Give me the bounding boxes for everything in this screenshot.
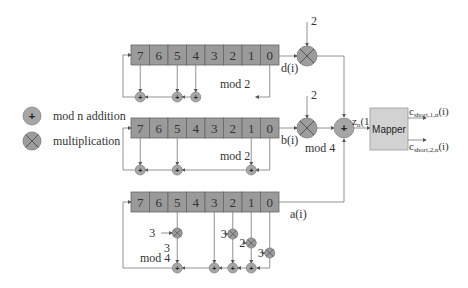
- cell-label: 2: [230, 195, 237, 210]
- svg-text:+: +: [175, 265, 179, 272]
- register-cell: 5: [168, 192, 187, 212]
- summer-adder: +: [334, 118, 354, 138]
- mod4-label-b: mod 4: [305, 141, 335, 155]
- register-cell: 6: [150, 45, 169, 65]
- svg-text:+: +: [231, 265, 235, 272]
- register-cell: 1: [242, 45, 261, 65]
- svg-text:+: +: [212, 265, 216, 272]
- multiplier-b-const: 2: [311, 88, 317, 102]
- register-cell: 3: [205, 45, 224, 65]
- cell-label: 6: [156, 121, 163, 136]
- register-cell: 2: [224, 45, 243, 65]
- cell-label: 1: [248, 48, 255, 63]
- svg-text:+: +: [175, 94, 179, 101]
- feedback-adder: +: [209, 263, 219, 273]
- cell-label: 5: [174, 121, 181, 136]
- feedback-adder: +: [172, 92, 182, 102]
- legend: + mod n addition multiplication: [23, 107, 126, 150]
- register-cell: 5: [168, 118, 187, 138]
- mapper-output-2: cshort,2,n(i): [409, 140, 449, 154]
- svg-text:+: +: [175, 167, 179, 174]
- cell-label: 5: [174, 195, 181, 210]
- register-cell: 5: [168, 45, 187, 65]
- cell-label: 3: [211, 48, 218, 63]
- cell-label: 0: [267, 121, 274, 136]
- mod-label: mod 2: [220, 149, 250, 163]
- tap-multiplier: [172, 228, 182, 238]
- cell-label: 7: [137, 48, 144, 63]
- register-cell: 6: [150, 118, 169, 138]
- mapper-label: Mapper: [372, 124, 407, 135]
- legend-adder-label: mod n addition: [53, 109, 126, 123]
- mapper-output-1: cshort,1,n(i): [409, 105, 449, 119]
- feedback-adder: +: [135, 165, 145, 175]
- register-cell: 0: [261, 118, 280, 138]
- register-b: 76543210mod 2+++: [123, 118, 279, 175]
- feedback-adder: +: [172, 263, 182, 273]
- register-cell: 3: [205, 192, 224, 212]
- svg-text:+: +: [194, 94, 198, 101]
- tap-multiplier: [265, 248, 275, 258]
- register-cell: 4: [187, 45, 206, 65]
- tap-coeff: 3: [149, 226, 155, 240]
- cell-label: 7: [137, 195, 144, 210]
- cell-label: 6: [156, 48, 163, 63]
- tap-multiplier: [228, 229, 238, 239]
- output-label-a: a(i): [290, 207, 307, 221]
- cell-label: 4: [193, 121, 200, 136]
- tap-multiplier: [246, 238, 256, 248]
- register-cell: 3: [205, 118, 224, 138]
- register-a: 76543210mod 43323++++3: [123, 192, 279, 273]
- cell-label: 1: [248, 121, 255, 136]
- cell-label: 4: [193, 195, 200, 210]
- svg-text:+: +: [138, 94, 142, 101]
- cell-label: 3: [211, 121, 218, 136]
- cell-label: 3: [211, 195, 218, 210]
- register-cell: 2: [224, 118, 243, 138]
- register-cell: 1: [242, 192, 261, 212]
- multiplier-b: 2 b(i) mod 4: [279, 88, 335, 155]
- cell-label: 0: [267, 195, 274, 210]
- cell-label: 2: [230, 121, 237, 136]
- svg-text:+: +: [29, 110, 35, 122]
- mod-label: mod 2: [220, 77, 250, 91]
- legend-adder-symbol: +: [23, 107, 41, 125]
- register-cell: 7: [131, 192, 150, 212]
- legend-mult-label: multiplication: [53, 134, 120, 148]
- register-cell: 4: [187, 192, 206, 212]
- feedback-adder: +: [228, 263, 238, 273]
- register-cell: 7: [131, 45, 150, 65]
- extra-const: 3: [164, 241, 170, 255]
- legend-mult-symbol: [23, 132, 41, 150]
- register-cell: 7: [131, 118, 150, 138]
- register-cell: 0: [261, 192, 280, 212]
- cell-label: 6: [156, 195, 163, 210]
- svg-text:+: +: [249, 167, 253, 174]
- svg-text:+: +: [138, 167, 142, 174]
- output-label-d: d(i): [281, 61, 298, 75]
- register-cell: 6: [150, 192, 169, 212]
- cell-label: 0: [267, 48, 274, 63]
- output-label-b: b(i): [281, 133, 298, 147]
- register-cell: 0: [261, 45, 280, 65]
- cell-label: 2: [230, 48, 237, 63]
- register-cell: 2: [224, 192, 243, 212]
- feedback-adder: +: [172, 165, 182, 175]
- feedback-adder: +: [191, 92, 201, 102]
- register-d: 76543210mod 2+++: [123, 45, 279, 102]
- svg-text:+: +: [249, 265, 253, 272]
- svg-text:+: +: [341, 122, 347, 134]
- feedback-adder: +: [246, 165, 256, 175]
- register-cell: 4: [187, 118, 206, 138]
- feedback-adder: +: [246, 263, 256, 273]
- register-cell: 1: [242, 118, 261, 138]
- lfsr-diagram: + mod n addition multiplication 76543210…: [0, 0, 468, 288]
- mapper-block: Mapper cshort,1,n(i) cshort,2,n(i): [370, 105, 449, 154]
- cell-label: 4: [193, 48, 200, 63]
- multiplier-d-const: 2: [311, 14, 317, 28]
- cell-label: 5: [174, 48, 181, 63]
- cell-label: 1: [248, 195, 255, 210]
- cell-label: 7: [137, 121, 144, 136]
- feedback-adder: +: [135, 92, 145, 102]
